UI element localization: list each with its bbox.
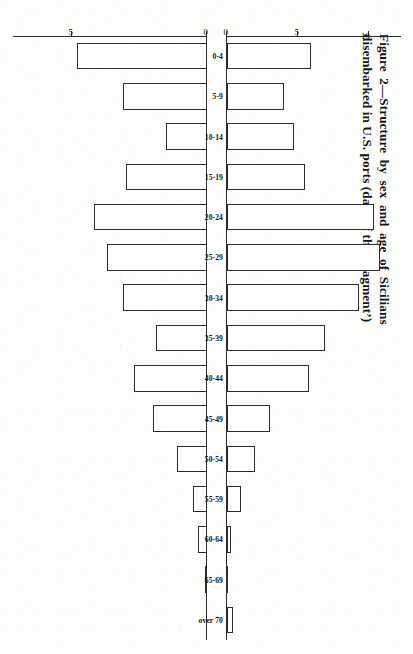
bar-male-0-4 xyxy=(227,43,311,70)
bar-male-55-59 xyxy=(227,486,241,513)
female-value-axis xyxy=(13,36,207,37)
category-label-60-64: 60-64 xyxy=(205,535,223,544)
bar-female-30-34 xyxy=(123,284,207,311)
category-label-45-49: 45-49 xyxy=(205,414,223,423)
chart-females-lower: 05 xyxy=(0,0,213,654)
bar-female-5-9 xyxy=(123,83,207,110)
rotated-figure-wrapper: Figure 2—Structure by sex and age of Sic… xyxy=(0,0,413,654)
bar-male-25-29 xyxy=(227,244,380,271)
female-tick-label-0: 0 xyxy=(204,27,209,37)
bar-female-50-54 xyxy=(177,446,207,473)
category-label-20-24: 20-24 xyxy=(205,213,223,222)
male-tick-label-10: 10 xyxy=(361,31,370,41)
bar-male-5-9 xyxy=(227,83,284,110)
category-label-5-9: 5-9 xyxy=(213,92,223,101)
bar-female-35-39 xyxy=(156,325,207,352)
bar-female-15-19 xyxy=(126,164,207,191)
bar-male-15-19 xyxy=(227,164,305,191)
bar-female-25-29 xyxy=(107,244,207,271)
category-label-0-4: 0-4 xyxy=(213,52,223,61)
bar-female-0-4 xyxy=(77,43,207,70)
category-label-over-70: over 70 xyxy=(199,615,223,624)
bar-female-40-44 xyxy=(134,365,207,392)
category-label-55-59: 55-59 xyxy=(205,495,223,504)
bar-male-30-34 xyxy=(227,284,359,311)
bar-male-50-54 xyxy=(227,446,255,473)
bar-male-40-44 xyxy=(227,365,309,392)
bar-male-20-24 xyxy=(227,204,374,231)
bar-male-45-49 xyxy=(227,405,270,432)
bar-male-60-64 xyxy=(227,526,231,553)
scanned-page: Figure 2—Structure by sex and age of Sic… xyxy=(0,0,413,654)
bar-female-20-24 xyxy=(94,204,207,231)
bar-male-35-39 xyxy=(227,325,325,352)
bar-male-65-69 xyxy=(226,566,228,593)
category-label-30-34: 30-34 xyxy=(205,293,223,302)
male-value-axis xyxy=(226,36,401,37)
chart-males-upper: 0510 xyxy=(213,0,413,654)
bar-male-10-14 xyxy=(227,123,294,150)
bar-male-over-70 xyxy=(227,607,233,634)
category-label-15-19: 15-19 xyxy=(205,172,223,181)
category-label-65-69: 65-69 xyxy=(205,575,223,584)
bar-female-45-49 xyxy=(153,405,207,432)
category-label-40-44: 40-44 xyxy=(205,374,223,383)
category-label-35-39: 35-39 xyxy=(205,334,223,343)
male-tick-label-5: 5 xyxy=(294,27,299,37)
figure-2: Figure 2—Structure by sex and age of Sic… xyxy=(0,0,413,654)
category-label-50-54: 50-54 xyxy=(205,454,223,463)
category-label-10-14: 10-14 xyxy=(205,132,223,141)
female-tick-label-5: 5 xyxy=(69,27,74,37)
bar-female-10-14 xyxy=(167,123,208,150)
male-tick-label-0: 0 xyxy=(224,27,229,37)
category-label-25-29: 25-29 xyxy=(205,253,223,262)
